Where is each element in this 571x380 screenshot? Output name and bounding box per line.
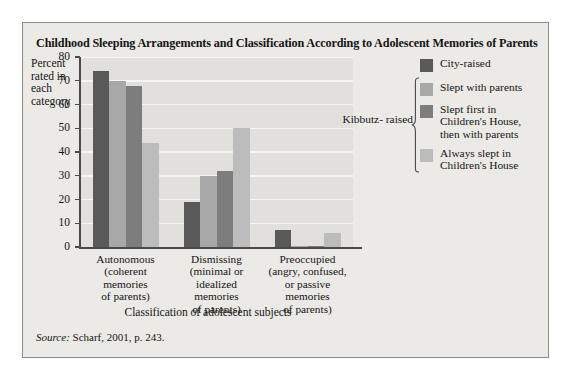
legend-swatch-icon [420,149,433,162]
bar [126,86,143,248]
source-text: Scharf, 2001, p. 243. [70,331,165,343]
legend-item-label: Always slept in Children's House [440,147,518,172]
y-axis-tick-label: 20 [44,193,70,205]
y-axis-tick-label: 70 [44,74,70,86]
y-axis-tick [75,223,80,224]
gridline [80,57,353,58]
bar [184,202,201,247]
y-axis-tick-label: 10 [44,216,70,228]
legend-item-label: Slept first in Children's House, then wi… [440,103,521,140]
legend-item-label: City-raised [440,57,491,69]
x-axis-line [79,247,362,249]
y-axis-tick [75,128,80,129]
y-axis-tick [75,104,80,105]
y-axis-tick [75,80,80,81]
y-axis-tick [75,151,80,152]
bar [324,233,341,247]
x-axis-caption: Classification of adolescent subjects [63,306,353,318]
bar [93,71,110,247]
y-axis-tick [75,199,80,200]
plot-area [80,57,353,247]
y-axis-tick-label: 40 [44,145,70,157]
bar [142,143,159,248]
y-axis-tick [75,56,80,57]
legend-swatch-icon [420,59,433,72]
bar [275,230,292,247]
y-axis-tick-label: 30 [44,169,70,181]
y-axis-tick [75,246,80,247]
source-note: Source: Scharf, 2001, p. 243. [36,331,165,343]
legend-group-label: Kibbutz- raised [335,113,413,125]
page-title: Childhood Sleeping Arrangements and Clas… [36,36,541,51]
y-axis-tick-label: 50 [44,121,70,133]
figure-container: Childhood Sleeping Arrangements and Clas… [22,22,549,358]
legend-brace-icon [411,77,420,173]
bar [217,171,234,247]
bar [233,128,250,247]
y-axis-tick-label: 0 [44,240,70,252]
legend-swatch-icon [420,105,433,118]
y-axis-tick [75,175,80,176]
plot-wrapper: 01020304050607080Autonomous (coherent me… [80,57,353,261]
bar [109,81,126,247]
y-axis-tick-label: 60 [44,98,70,110]
source-label: Source: [36,331,70,343]
y-axis-tick-label: 80 [44,50,70,62]
bar [200,176,217,247]
legend-item-label: Slept with parents [440,81,522,93]
legend-swatch-icon [420,83,433,96]
